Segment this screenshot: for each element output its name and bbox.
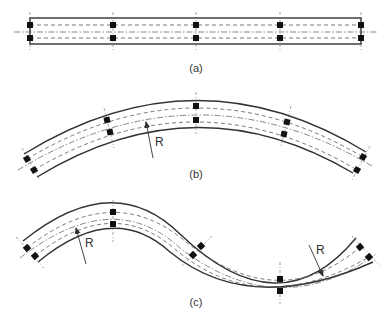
radius-label: R (155, 135, 164, 149)
panel-c-label: (c) (190, 296, 203, 308)
panel-b-label: (b) (189, 168, 202, 180)
radius-label-lower: R (316, 243, 325, 257)
section-lines (16, 200, 380, 304)
panel-c-s-curve-beam: R R (c) (16, 200, 380, 308)
beam-diagram: (a) R (b) (0, 0, 389, 321)
centerline-arc (18, 115, 372, 170)
lower-dashed-arc (34, 122, 357, 170)
upper-outline (23, 203, 356, 283)
panel-a-label: (a) (189, 62, 202, 74)
radius-arrow (146, 122, 153, 158)
section-markers (23, 103, 367, 174)
upper-dashed-arc (27, 108, 363, 159)
panel-a-straight-beam: (a) (14, 12, 378, 74)
panel-b-arc-beam: R (b) (18, 92, 372, 180)
radius-label-upper: R (85, 236, 94, 250)
